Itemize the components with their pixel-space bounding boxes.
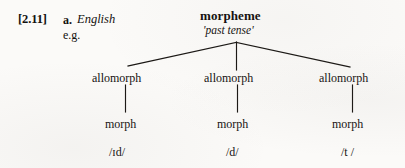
branch-line-right	[237, 43, 350, 68]
allomorph-node-1: allomorph	[92, 72, 141, 84]
morph-node-2: morph	[217, 118, 248, 130]
root-node-label: morpheme	[200, 9, 261, 22]
example-marker: e.g.	[63, 29, 80, 41]
transcription-2: /d/	[226, 146, 239, 158]
root-node-gloss: 'past tense'	[203, 25, 254, 37]
morph-node-3: morph	[332, 118, 363, 130]
morph-node-1: morph	[105, 118, 136, 130]
allomorph-node-3: allomorph	[319, 72, 368, 84]
allomorph-node-2: allomorph	[204, 72, 253, 84]
language-label: English	[77, 13, 115, 26]
transcription-3: /t /	[341, 146, 354, 158]
figure-reference: [2.11]	[18, 13, 47, 26]
figure-canvas: [2.11] a. English e.g. morpheme 'past te…	[0, 0, 405, 168]
branch-line-left	[128, 43, 236, 67]
item-letter: a.	[63, 14, 72, 26]
transcription-1: /ɪd/	[109, 146, 125, 158]
